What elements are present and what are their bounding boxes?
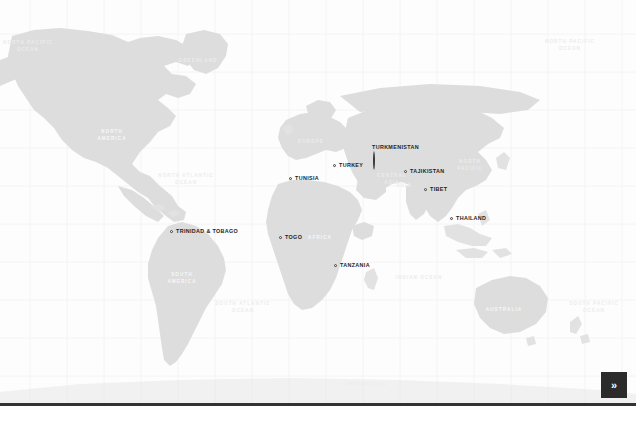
bottom-divider [0, 403, 636, 406]
landmass-tasmania [526, 336, 536, 346]
landmass-south-america [148, 222, 226, 366]
map-marker-label: TANZANIA [340, 262, 370, 270]
marker-dot-icon [334, 264, 337, 267]
landmass-antarctica [0, 378, 636, 404]
map-marker-turkmenistan[interactable]: TURKMENISTAN [372, 144, 419, 170]
map-marker-label: THAILAND [456, 215, 486, 223]
landmass-japan [496, 152, 510, 170]
landmass-southeast-asia [444, 224, 492, 246]
map-screen: NORTH PACIFIC OCEAN GREENLAND NORTH ATLA… [0, 0, 636, 421]
marker-dot-icon [333, 164, 336, 167]
landmass-australia [474, 276, 548, 334]
marker-dot-icon [424, 188, 427, 191]
world-map[interactable]: NORTH PACIFIC OCEAN GREENLAND NORTH ATLA… [0, 0, 636, 404]
map-marker-thailand[interactable]: THAILAND [450, 215, 486, 223]
marker-dot-icon [289, 177, 292, 180]
map-marker-turkey[interactable]: TURKEY [333, 162, 363, 170]
landmass-madagascar [364, 268, 378, 290]
map-marker-label: TRINIDAD & TOBAGO [176, 228, 238, 236]
map-marker-label: TUNISIA [295, 175, 319, 183]
map-marker-label: TURKMENISTAN [372, 144, 419, 152]
world-map-graphic [0, 0, 636, 404]
marker-dot-icon [279, 236, 282, 239]
map-marker-tanzania[interactable]: TANZANIA [334, 262, 370, 270]
map-marker-tibet[interactable]: TIBET [424, 186, 447, 194]
marker-dot-icon [373, 151, 375, 170]
map-marker-tajikistan[interactable]: TAJIKISTAN [404, 168, 444, 176]
marker-dot-icon [170, 230, 173, 233]
landmass-indonesia-islands [456, 248, 512, 258]
landmass-arabia [356, 174, 386, 200]
map-marker-label: TURKEY [339, 162, 363, 170]
landmass-new-zealand [570, 316, 590, 344]
landmass-horn-of-africa [352, 222, 374, 240]
map-marker-label: TIBET [430, 186, 447, 194]
map-marker-tunisia[interactable]: TUNISIA [289, 175, 319, 183]
landmass-africa [266, 180, 362, 310]
map-marker-trinidad-and-tobago[interactable]: TRINIDAD & TOBAGO [170, 228, 238, 236]
marker-dot-icon [450, 217, 453, 220]
map-marker-togo[interactable]: TOGO [279, 234, 302, 242]
map-marker-label: TOGO [285, 234, 302, 242]
map-marker-label: TAJIKISTAN [410, 168, 444, 176]
next-button[interactable]: » [601, 372, 627, 398]
landmass-greenland [182, 30, 228, 74]
marker-dot-icon [404, 170, 407, 173]
